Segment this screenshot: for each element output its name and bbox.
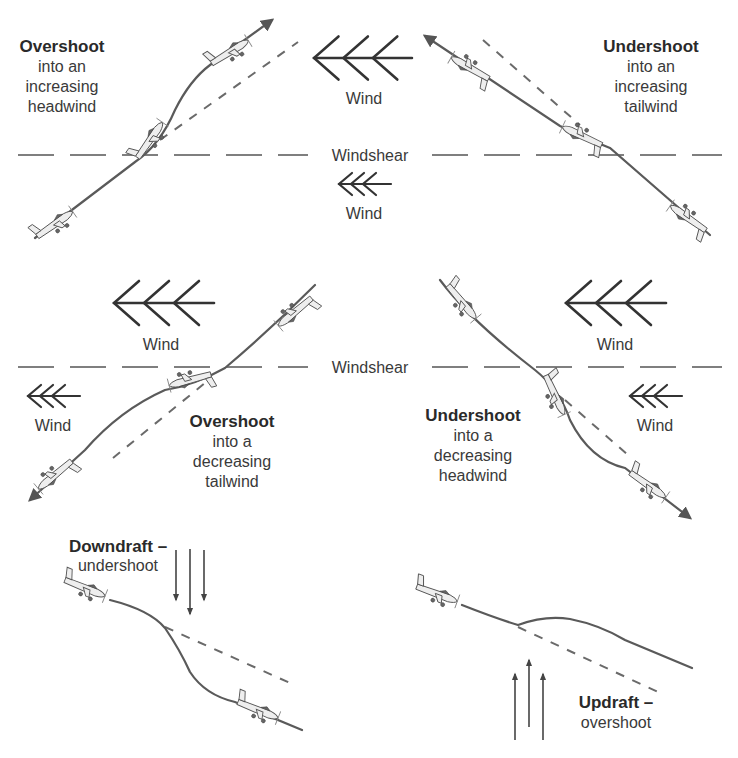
wind-chevron-arrow-icon	[339, 173, 391, 195]
panel-line: tailwind	[205, 473, 258, 490]
panel-title: Undershoot	[425, 406, 521, 425]
panel-title: Undershoot	[603, 37, 699, 56]
airplane-icon	[232, 689, 283, 727]
wind-label: Wind	[637, 417, 673, 434]
panel-line: increasing	[26, 78, 99, 95]
panel-title: Overshoot	[19, 37, 104, 56]
flight-path	[110, 600, 302, 730]
panel-line: into a	[453, 427, 492, 444]
wind-chevron-arrow-icon	[28, 385, 80, 407]
intended-glidepath	[165, 627, 290, 683]
panel-line: tailwind	[624, 98, 677, 115]
airplane-icon	[557, 118, 608, 158]
airplane-icon	[167, 364, 217, 398]
panel-overshoot-headwind: Overshoot into an increasing headwind	[19, 20, 298, 246]
wind-label: Wind	[346, 90, 382, 107]
airplane-icon	[445, 48, 496, 91]
panel-title: Updraft –	[579, 693, 654, 712]
airplane-icon	[663, 197, 714, 242]
wind-label: Wind	[346, 205, 382, 222]
panel-line: overshoot	[581, 714, 652, 731]
panel-updraft: Updraft – overshoot	[411, 574, 692, 740]
panel-line: into an	[627, 58, 675, 75]
windshear-diagram: Windshear Overshoot into an increasing h…	[0, 0, 738, 758]
wind-chevron-arrow-icon	[114, 281, 214, 325]
panel-line: headwind	[28, 98, 97, 115]
airplane-icon	[203, 30, 254, 74]
wind-label: Wind	[597, 336, 633, 353]
airplane-icon	[126, 115, 171, 166]
windshear-label-middle: Windshear	[332, 359, 409, 376]
wind-chevron-arrow-icon	[630, 385, 682, 407]
wind-label: Wind	[143, 336, 179, 353]
wind-chevron-arrow-icon	[314, 36, 412, 79]
panel-title: Overshoot	[189, 412, 274, 431]
panel-undershoot-headwind: Wind Wind Undershoot into a decreasing h…	[425, 275, 690, 518]
panel-overshoot-tailwind: Wind Wind Overshoot into a decreasing ta…	[28, 281, 322, 500]
panel-downdraft: Downdraft – undershoot	[59, 537, 302, 730]
windshear-label-top: Windshear	[332, 147, 409, 164]
wind-chevron-arrow-icon	[566, 281, 666, 325]
panel-undershoot-tailwind: Undershoot into an increasing tailwind	[425, 36, 714, 242]
panel-line: increasing	[615, 78, 688, 95]
panel-line: headwind	[439, 467, 508, 484]
panel-line: decreasing	[434, 447, 512, 464]
intended-glidepath	[518, 627, 658, 692]
panel-line: into a	[212, 433, 251, 450]
panel-title: Downdraft –	[69, 537, 167, 556]
airplane-icon	[439, 275, 486, 325]
flight-path	[462, 605, 692, 668]
airplane-icon	[411, 574, 462, 611]
wind-label: Wind	[35, 417, 71, 434]
intended-glidepath	[483, 40, 580, 125]
airplane-icon	[28, 201, 79, 246]
panel-line: undershoot	[78, 557, 159, 574]
panel-line: into an	[38, 58, 86, 75]
panel-line: decreasing	[193, 453, 271, 470]
airplane-icon	[272, 289, 322, 336]
